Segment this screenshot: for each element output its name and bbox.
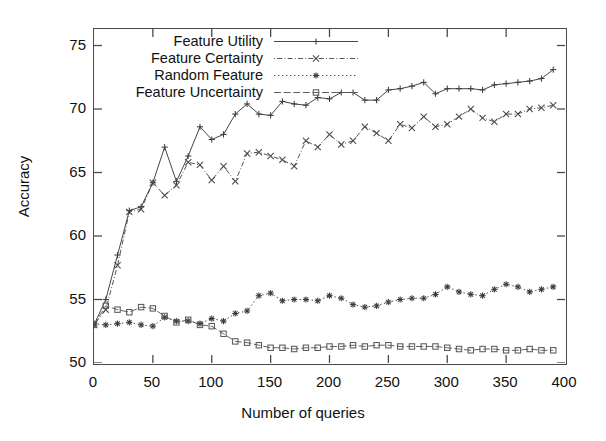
x-tick-label: 200 [299,374,359,389]
x-tick-label: 350 [475,374,535,389]
legend-label: Feature Utility [104,33,272,50]
x-tick-label: 0 [63,374,123,389]
legend-key [272,50,360,67]
x-axis-title: Number of queries [0,404,606,421]
y-tick-label: 55 [52,291,86,306]
chart-figure: 505560657075 050100150200250300350400 Ac… [0,0,606,441]
series-2 [94,281,556,329]
legend-item: Random Feature [104,67,360,84]
x-tick-label: 150 [240,374,300,389]
x-tick-label: 400 [534,374,594,389]
y-tick-label: 70 [52,100,86,115]
legend-label: Feature Uncertainty [104,84,272,101]
legend-key [272,84,360,101]
chart-legend: Feature UtilityFeature CertaintyRandom F… [104,33,360,101]
series-3 [94,303,556,353]
legend-item: Feature Utility [104,33,360,50]
x-tick-label: 50 [122,374,182,389]
y-tick-label: 50 [52,354,86,369]
legend-label: Feature Certainty [104,50,272,67]
x-tick-label: 250 [357,374,417,389]
legend-item: Feature Certainty [104,50,360,67]
legend-item: Feature Uncertainty [104,84,360,101]
legend-key [272,33,360,50]
x-tick-label: 100 [181,374,241,389]
x-tick-label: 300 [416,374,476,389]
legend-label: Random Feature [104,67,272,84]
y-tick-label: 75 [52,37,86,52]
legend-key [272,67,360,84]
x-axis-tick-labels: 050100150200250300350400 [0,374,606,398]
y-tick-label: 65 [52,164,86,179]
y-axis-title: Accuracy [15,117,32,257]
series-1 [94,102,556,328]
y-tick-label: 60 [52,227,86,242]
